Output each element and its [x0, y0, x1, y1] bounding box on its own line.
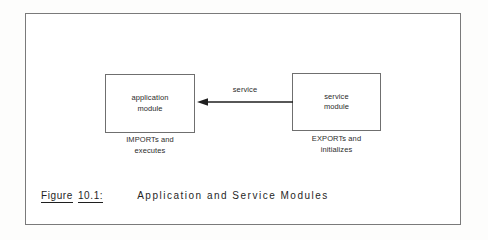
service-arrow-icon	[197, 95, 293, 109]
service-module-subcaption: EXPORTs and initializes	[292, 134, 381, 155]
service-module-box: service module	[292, 73, 381, 131]
service-module-title: service module	[324, 92, 349, 113]
figure-caption-label: Figure	[41, 190, 73, 203]
application-module-subcaption: IMPORTs and executes	[105, 135, 195, 156]
application-module-title: application module	[132, 93, 169, 114]
figure-caption: Figure 10.1: Application and Service Mod…	[41, 190, 329, 203]
application-module-box: application module	[105, 74, 195, 133]
figure-caption-number: 10.1:	[78, 190, 103, 203]
figure-frame: application module IMPORTs and executes …	[25, 13, 461, 225]
figure-caption-title: Application and Service Modules	[137, 190, 329, 201]
service-arrow-label: service	[197, 85, 293, 95]
